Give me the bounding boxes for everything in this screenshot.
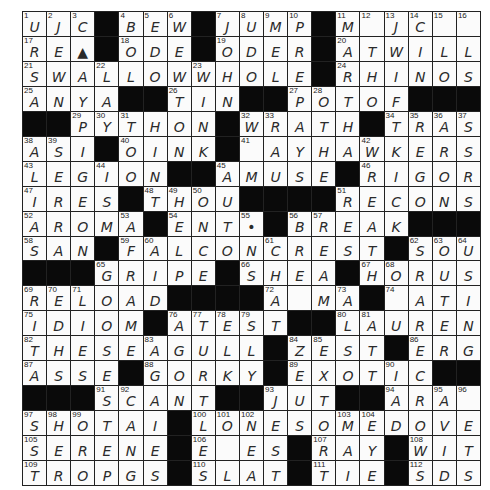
grid-cell[interactable]: 29P	[71, 112, 94, 136]
grid-cell[interactable]: E	[312, 162, 335, 186]
grid-cell[interactable]: 52A	[23, 212, 46, 236]
grid-cell[interactable]: N	[119, 436, 142, 460]
grid-cell[interactable]: 7J	[216, 12, 239, 36]
grid-cell[interactable]: T	[360, 361, 383, 385]
grid-cell[interactable]: 22L	[95, 62, 118, 86]
grid-cell[interactable]: E	[47, 162, 70, 186]
grid-cell[interactable]: E	[433, 311, 456, 335]
grid-cell[interactable]: N	[168, 137, 191, 161]
grid-cell[interactable]: 88G	[144, 361, 167, 385]
grid-cell[interactable]: 24R	[336, 62, 359, 86]
grid-cell[interactable]: E	[312, 237, 335, 261]
grid-cell[interactable]: D	[47, 311, 70, 335]
grid-cell[interactable]: L	[264, 62, 287, 86]
grid-cell[interactable]: N	[433, 187, 456, 211]
grid-cell[interactable]: 19O	[216, 37, 239, 61]
grid-cell[interactable]: E	[336, 212, 359, 236]
grid-cell[interactable]: 102N	[240, 411, 263, 435]
grid-cell[interactable]: 61C	[264, 237, 287, 261]
grid-cell[interactable]: 99O	[71, 411, 94, 435]
grid-cell[interactable]: 56B	[288, 212, 311, 236]
grid-cell[interactable]: N	[168, 386, 191, 410]
grid-cell[interactable]: 44I	[95, 162, 118, 186]
grid-cell[interactable]: O	[71, 461, 94, 485]
grid-cell[interactable]: 4B	[119, 12, 142, 36]
grid-cell[interactable]: H	[216, 62, 239, 86]
grid-cell[interactable]: E	[95, 361, 118, 385]
grid-cell[interactable]: 103M	[336, 411, 359, 435]
grid-cell[interactable]: 101O	[216, 411, 239, 435]
grid-cell[interactable]: O	[336, 361, 359, 385]
grid-cell[interactable]: U	[216, 187, 239, 211]
grid-cell[interactable]: N	[192, 112, 215, 136]
grid-cell[interactable]: O	[168, 112, 191, 136]
grid-cell[interactable]: 77T	[192, 311, 215, 335]
grid-cell[interactable]: T	[192, 386, 215, 410]
grid-cell[interactable]: S	[457, 461, 480, 485]
grid-cell[interactable]: 72A	[264, 286, 287, 310]
grid-cell[interactable]: D	[385, 411, 408, 435]
grid-cell[interactable]: 57R	[312, 212, 335, 236]
grid-cell[interactable]: O	[433, 62, 456, 86]
grid-cell[interactable]: C	[192, 237, 215, 261]
grid-cell[interactable]: 84Z	[288, 336, 311, 360]
grid-cell[interactable]: G	[71, 162, 94, 186]
grid-cell[interactable]: E	[288, 261, 311, 285]
grid-cell[interactable]: 51R	[336, 187, 359, 211]
grid-cell[interactable]: W	[47, 62, 70, 86]
grid-cell[interactable]: R	[47, 187, 70, 211]
grid-cell[interactable]: M	[312, 286, 335, 310]
grid-cell[interactable]: 59F	[119, 237, 142, 261]
grid-cell[interactable]: G	[119, 461, 142, 485]
grid-cell[interactable]: 104E	[360, 411, 383, 435]
grid-cell[interactable]: 92C	[119, 386, 142, 410]
grid-cell[interactable]: 6W	[168, 12, 191, 36]
grid-cell[interactable]: W	[168, 62, 191, 86]
grid-cell[interactable]: 31T	[119, 112, 142, 136]
grid-cell[interactable]: C	[409, 361, 432, 385]
grid-cell[interactable]: 9M	[264, 12, 287, 36]
grid-cell[interactable]: 108W	[409, 436, 432, 460]
grid-cell[interactable]: E	[457, 411, 480, 435]
grid-cell[interactable]: 41	[240, 137, 263, 161]
grid-cell[interactable]: 85E	[312, 336, 335, 360]
grid-cell[interactable]	[216, 436, 239, 460]
grid-cell[interactable]: R	[409, 386, 432, 410]
grid-cell[interactable]: D	[144, 37, 167, 61]
grid-cell[interactable]: 80L	[336, 311, 359, 335]
grid-cell[interactable]: 58S	[23, 237, 46, 261]
grid-cell[interactable]	[288, 286, 311, 310]
grid-cell[interactable]: Y	[360, 436, 383, 460]
grid-cell[interactable]: 73A	[336, 286, 359, 310]
grid-cell[interactable]: E	[71, 187, 94, 211]
grid-cell[interactable]: 76A	[168, 311, 191, 335]
grid-cell[interactable]: O	[409, 187, 432, 211]
grid-cell[interactable]: E	[240, 436, 263, 460]
grid-cell[interactable]: O	[312, 411, 335, 435]
grid-cell[interactable]: T	[95, 411, 118, 435]
grid-cell[interactable]: I	[409, 37, 432, 61]
grid-cell[interactable]: 40O	[119, 137, 142, 161]
grid-cell[interactable]: 8U	[240, 12, 263, 36]
grid-cell[interactable]: U	[264, 162, 287, 186]
grid-cell[interactable]: 53A	[119, 212, 142, 236]
grid-cell[interactable]: 46R	[360, 162, 383, 186]
grid-cell[interactable]: M	[240, 162, 263, 186]
grid-cell[interactable]: A	[360, 212, 383, 236]
grid-cell[interactable]: I	[144, 261, 167, 285]
grid-cell[interactable]: S	[95, 187, 118, 211]
grid-cell[interactable]: T	[264, 461, 287, 485]
grid-cell[interactable]: T	[360, 237, 383, 261]
grid-cell[interactable]: R	[409, 311, 432, 335]
grid-cell[interactable]: P	[95, 461, 118, 485]
grid-cell[interactable]: 83A	[144, 336, 167, 360]
grid-cell[interactable]: H	[336, 112, 359, 136]
grid-cell[interactable]: 110S	[192, 461, 215, 485]
grid-cell[interactable]: 26T	[168, 87, 191, 111]
grid-cell[interactable]: 89E	[288, 361, 311, 385]
grid-cell[interactable]: Y	[288, 137, 311, 161]
grid-cell[interactable]: E	[95, 436, 118, 460]
grid-cell[interactable]: S	[457, 261, 480, 285]
grid-cell[interactable]: T	[312, 112, 335, 136]
grid-cell[interactable]: U	[385, 311, 408, 335]
